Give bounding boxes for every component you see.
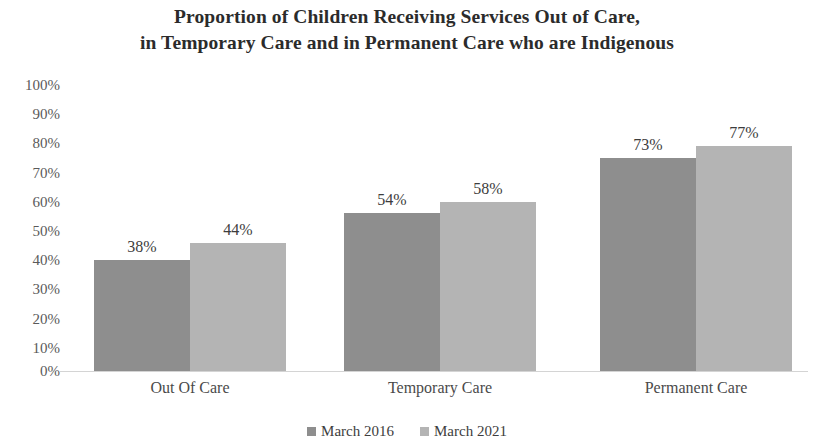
bar-group-out-of-care: 38% 44% [94,79,286,371]
bar-chart-figure: Proportion of Children Receiving Service… [0,0,814,446]
axis-baseline [60,371,808,372]
y-axis-tick-label: 100% [2,78,60,93]
y-axis-tick-label: 60% [2,194,60,209]
legend-swatch-icon [307,427,316,436]
chart-title: Proportion of Children Receiving Service… [0,4,814,56]
bar-value-label: 73% [633,137,662,153]
legend-label: March 2016 [321,424,394,439]
bar-march-2016-permanent-care[interactable]: 73% [600,158,696,371]
plot-area: 38% 44% 54% 58% 73% 77% [66,79,806,371]
bar-value-label: 54% [377,192,406,208]
bar-value-label: 77% [729,125,758,141]
y-axis-tick-label: 20% [2,311,60,326]
bar-value-label: 58% [473,181,502,197]
y-axis-tick-label: 90% [2,107,60,122]
bar-march-2021-temporary-care[interactable]: 58% [440,202,536,371]
chart-title-line-2: in Temporary Care and in Permanent Care … [0,30,814,56]
legend-item-march-2016[interactable]: March 2016 [307,424,394,439]
y-axis-tick-label: 80% [2,136,60,151]
x-axis: Out Of Care Temporary Care Permanent Car… [66,378,806,402]
chart-title-line-1: Proportion of Children Receiving Service… [0,4,814,30]
y-axis-tick-label: 40% [2,253,60,268]
x-axis-category-permanent-care: Permanent Care [600,378,792,398]
x-axis-category-temporary-care: Temporary Care [344,378,536,398]
bar-group-temporary-care: 54% 58% [344,79,536,371]
chart-legend: March 2016 March 2021 [0,424,814,439]
legend-label: March 2021 [434,424,507,439]
bar-group-permanent-care: 73% 77% [600,79,792,371]
bar-march-2016-out-of-care[interactable]: 38% [94,260,190,371]
y-axis-tick-label: 70% [2,165,60,180]
y-axis-tick-label: 0% [2,364,60,379]
y-axis-tick-label: 30% [2,282,60,297]
y-axis: 100% 90% 80% 70% 60% 50% 40% 30% 20% 10%… [0,79,60,371]
y-axis-tick-label: 50% [2,224,60,239]
x-axis-category-out-of-care: Out Of Care [94,378,286,398]
legend-item-march-2021[interactable]: March 2021 [420,424,507,439]
bar-value-label: 44% [223,222,252,238]
bar-march-2021-permanent-care[interactable]: 77% [696,146,792,371]
bar-march-2021-out-of-care[interactable]: 44% [190,243,286,371]
y-axis-tick-label: 10% [2,340,60,355]
bar-march-2016-temporary-care[interactable]: 54% [344,213,440,371]
bar-value-label: 38% [127,239,156,255]
legend-swatch-icon [420,427,429,436]
